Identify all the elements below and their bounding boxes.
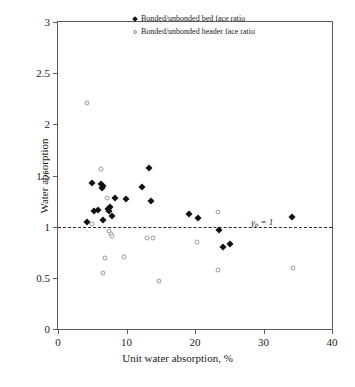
x-tick-label: 40: [327, 336, 338, 348]
data-point-header-face: [89, 221, 94, 226]
data-point-bed-face: [148, 198, 155, 205]
data-point-header-face: [103, 256, 108, 261]
x-tick: [264, 329, 265, 334]
data-point-bed-face: [100, 216, 107, 223]
plot-area: γb = 1 00.511.522.53010203040: [57, 21, 333, 330]
data-point-header-face: [110, 233, 115, 238]
data-point-header-face: [215, 210, 220, 215]
y-tick-label: 0.5: [36, 272, 50, 284]
y-tick: [53, 22, 58, 23]
data-point-bed-face: [226, 241, 233, 248]
data-point-header-face: [99, 167, 104, 172]
legend-item-bed-face: Bonded/unbonded bed face ratio: [129, 12, 255, 25]
y-tick: [53, 73, 58, 74]
y-tick-label: 2.5: [36, 67, 50, 79]
x-tick-label: 0: [55, 336, 61, 348]
open-circle-icon: [129, 30, 141, 34]
y-axis-title: Water absorption: [38, 138, 50, 213]
data-point-header-face: [157, 278, 162, 283]
legend-item-header-face: Bonded/unbonded header face ratio: [129, 25, 255, 38]
data-point-header-face: [145, 235, 150, 240]
water-absorption-scatter-figure: γb = 1 00.511.522.53010203040 Water abso…: [0, 0, 355, 387]
y-tick: [53, 124, 58, 125]
x-tick-label: 30: [258, 336, 269, 348]
x-tick: [58, 329, 59, 334]
data-point-header-face: [150, 235, 155, 240]
y-tick-label: 3: [45, 16, 51, 28]
data-point-bed-face: [109, 213, 116, 220]
data-point-header-face: [122, 255, 127, 260]
y-tick: [53, 176, 58, 177]
data-point-bed-face: [122, 195, 129, 202]
data-point-header-face: [85, 100, 90, 105]
data-point-bed-face: [288, 214, 295, 221]
x-tick: [195, 329, 196, 334]
y-tick: [53, 278, 58, 279]
plot-inner: γb = 1: [58, 22, 332, 329]
data-point-header-face: [290, 265, 295, 270]
data-point-header-face: [216, 267, 221, 272]
data-point-bed-face: [95, 207, 102, 214]
gamma-b-unity-line: [58, 227, 332, 228]
data-point-bed-face: [139, 183, 146, 190]
gamma-b-annotation: γb = 1: [251, 217, 273, 229]
x-axis-title: Unit water absorption, %: [0, 352, 355, 364]
data-point-bed-face: [111, 194, 118, 201]
legend: Bonded/unbonded bed face ratio Bonded/un…: [129, 12, 255, 38]
data-point-header-face: [105, 196, 110, 201]
x-tick: [332, 329, 333, 334]
x-tick-label: 10: [121, 336, 132, 348]
filled-diamond-icon: [129, 17, 141, 21]
data-point-bed-face: [194, 215, 201, 222]
data-point-bed-face: [146, 165, 153, 172]
y-tick-label: 1: [45, 221, 51, 233]
legend-label-header-face: Bonded/unbonded header face ratio: [141, 25, 255, 38]
legend-label-bed-face: Bonded/unbonded bed face ratio: [141, 12, 245, 25]
data-point-bed-face: [89, 179, 96, 186]
x-tick-label: 20: [190, 336, 201, 348]
data-point-header-face: [101, 270, 106, 275]
data-point-bed-face: [220, 244, 227, 251]
y-tick-label: 0: [45, 323, 51, 335]
x-tick: [127, 329, 128, 334]
data-point-bed-face: [185, 211, 192, 218]
y-tick: [53, 227, 58, 228]
data-point-header-face: [195, 240, 200, 245]
y-tick-label: 2: [45, 118, 51, 130]
